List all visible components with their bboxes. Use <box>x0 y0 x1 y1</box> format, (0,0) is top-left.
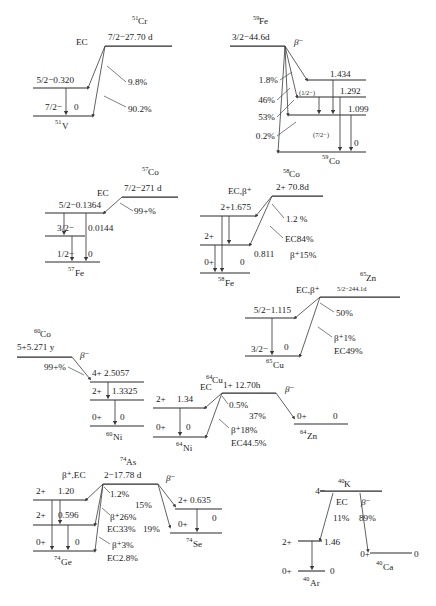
cu64-daughter-right-element: Zn <box>307 431 318 441</box>
zn65-daughter-element: Cu <box>273 360 284 370</box>
k40-daughter-left-mass: 40 <box>303 575 309 582</box>
cu64-daughter-left-element: Ni <box>183 443 193 453</box>
zn65-decay-mode-label: EC,β⁺ <box>296 285 320 295</box>
cr51-daughter-element: V <box>62 121 69 131</box>
fe59-level-4-spin: (7/2−) <box>313 131 329 139</box>
k40-parent-element: K <box>344 479 351 489</box>
cu64-branch-3: β⁺18% <box>231 425 258 435</box>
fe59-branch-1: 1.8% <box>259 75 278 85</box>
co58-branch-2-leader <box>270 226 283 238</box>
co57-level-2-spin: 3/2− <box>57 223 74 233</box>
co60-feed-1 <box>72 357 90 379</box>
fe59-feed-4 <box>278 46 285 152</box>
as74-level-right-2-spin: 0+ <box>178 519 188 529</box>
as74-level-right-2-energy: 0 <box>212 513 217 523</box>
cr51-decay-mode-label: EC <box>76 37 88 47</box>
scheme-co57: 57 Co 7/2−271 d EC 5/2−0.1364 3/2− 0.014… <box>45 165 178 278</box>
fe59-branch-2-leader <box>277 88 290 100</box>
as74-parent-level-label: 2−17.78 d <box>104 470 142 480</box>
cu64-decay-mode-ec: EC <box>200 382 212 392</box>
k40-branch-1: 11% <box>333 513 350 523</box>
cr51-parent-element: Cr <box>138 16 147 26</box>
as74-branch-4-leader <box>102 508 110 515</box>
zn65-level-2-energy: 0 <box>284 342 289 352</box>
as74-branch-1: 1.2% <box>110 489 129 499</box>
cu64-branch-3-leader <box>219 419 229 428</box>
co58-branch-2: EC84% <box>285 234 314 244</box>
co58-level-1-label: 2+1.675 <box>221 202 252 212</box>
co58-branch-3: β⁺15% <box>290 250 317 260</box>
decay-scheme-sheet: 51 Cr 7/2−27.70 d EC 5/2−0.320 7/2− 0 9.… <box>0 0 436 606</box>
co58-level-3-energy: 0 <box>240 257 245 267</box>
as74-branch-4: β⁺26% <box>110 512 137 522</box>
k40-level-2-energy: 0 <box>330 566 335 576</box>
co57-feed-1 <box>104 197 122 213</box>
zn65-branch-3: EC49% <box>334 346 363 356</box>
co57-daughter-element: Fe <box>75 268 84 278</box>
co58-parent-element: Co <box>289 169 300 179</box>
fe59-level-1-energy: 1.434 <box>330 69 351 79</box>
zn65-branch-2: β⁺1% <box>334 333 356 343</box>
scheme-fe59: 59 Fe 3/2−44.6d β⁻ 1.434 (1/2−) 1.292 1.… <box>230 14 369 166</box>
co60-level-2-spin: 2+ <box>92 386 102 396</box>
as74-level-3-energy: 0 <box>75 537 80 547</box>
cu64-level-2-energy: 0 <box>186 422 191 432</box>
co60-level-2-energy: 1.3325 <box>112 386 138 396</box>
co60-decay-mode-label: β⁻ <box>79 350 90 360</box>
cu64-branch-1-leader <box>222 396 228 404</box>
co60-daughter-element: Ni <box>113 432 123 442</box>
co58-level-2-energy: 0.811 <box>254 249 275 259</box>
k40-daughter-right-element: Ca <box>383 562 393 572</box>
fe59-decay-mode-label: β⁻ <box>293 37 304 47</box>
fe59-parent-element: Fe <box>259 16 268 26</box>
as74-decay-mode-right: β⁻ <box>165 473 176 483</box>
zn65-branch-2-leader <box>318 327 332 337</box>
cu64-level-right-energy: 0 <box>333 411 338 421</box>
as74-decay-mode-left: β⁺,EC <box>62 470 86 480</box>
cr51-parent-level-label: 7/2−27.70 d <box>108 32 153 42</box>
cu64-branch-2: 37% <box>249 411 266 421</box>
k40-level-right-spin: 0+ <box>360 549 370 559</box>
cu64-branch-1: 0.5% <box>229 400 248 410</box>
cr51-branch-1-leader <box>107 66 126 82</box>
co57-decay-mode-label: EC <box>97 188 109 198</box>
co60-level-3-spin: 0+ <box>92 412 102 422</box>
cu64-level-right-spin: 0+ <box>297 411 307 421</box>
as74-level-3-spin: 0+ <box>36 537 46 547</box>
k40-level-right-energy: 0 <box>414 549 419 559</box>
co58-branch-1-leader <box>272 204 284 218</box>
cr51-branch-2-leader <box>104 96 126 107</box>
co60-daughter-mass: 60 <box>106 430 112 437</box>
fe59-parent-level-label: 3/2−44.6d <box>232 32 270 42</box>
as74-daughter-left-element: Ge <box>61 557 72 567</box>
cu64-level-2-spin: 0+ <box>156 422 166 432</box>
as74-level-2-spin: 2+ <box>36 510 46 520</box>
zn65-parent-level-label: 5/2−244.1d <box>337 285 367 292</box>
decay-schemes-canvas: 51 Cr 7/2−27.70 d EC 5/2−0.320 7/2− 0 9.… <box>0 0 436 606</box>
as74-branch-5: EC33% <box>107 524 136 534</box>
cr51-daughter-mass: 51 <box>55 118 61 125</box>
co60-level-3-energy: 0 <box>120 412 125 422</box>
cr51-level-2-energy: 0 <box>74 102 79 112</box>
scheme-co58: 58 Co 2+ 70.8d EC,β⁺ 2+1.675 2+ 0.811 0+… <box>200 167 323 288</box>
fe59-daughter-mass: 59 <box>322 153 328 160</box>
scheme-k40: 40 K 4− EC β⁻ 11% 89% 2+ 1.46 0+ 0 40 Ar… <box>282 477 419 588</box>
co58-daughter-element: Fe <box>225 278 234 288</box>
cr51-feed-2 <box>93 46 105 116</box>
cr51-level-1-label: 5/2−0.320 <box>36 75 74 85</box>
scheme-cu64: 64 Cu 1+ 12.70h EC β⁻ 2+ 1.34 0+ 0 0.5% … <box>153 373 348 453</box>
cu64-level-1-spin: 2+ <box>156 394 166 404</box>
k40-decay-mode-ec: EC <box>336 497 348 507</box>
cu64-branch-4: EC44.5% <box>231 438 267 448</box>
as74-level-1-energy: 1.20 <box>58 486 74 496</box>
co58-level-2-spin: 2+ <box>204 231 214 241</box>
as74-branch-2: 15% <box>135 500 152 510</box>
zn65-branch-1-leader <box>320 303 334 312</box>
scheme-as74: 74 As 2−17.78 d β⁺,EC β⁻ 2+ 1.20 2+ 0.59… <box>33 455 222 567</box>
cr51-branch-1: 9.8% <box>128 77 147 87</box>
k40-level-1-energy: 1.46 <box>324 537 340 547</box>
k40-level-1-spin: 2+ <box>282 537 292 547</box>
fe59-feed-1 <box>285 46 307 80</box>
cr51-level-2-spin: 7/2− <box>45 102 62 112</box>
k40-level-2-spin: 0+ <box>282 566 292 576</box>
